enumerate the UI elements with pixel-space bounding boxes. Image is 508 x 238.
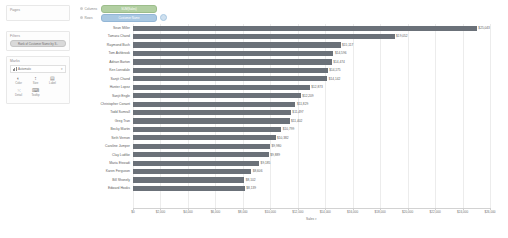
bar-row[interactable]: $14,596 <box>133 49 490 57</box>
bar[interactable] <box>133 34 395 39</box>
columns-shelf-icon <box>80 7 83 10</box>
bar-row[interactable]: $8,139 <box>133 184 490 192</box>
bar-row[interactable]: $14,474 <box>133 58 490 66</box>
bar-row[interactable]: $11,402 <box>133 117 490 125</box>
bar-value-label: $14,596 <box>333 49 346 57</box>
category-label-row[interactable]: Raymond Buch <box>80 41 131 49</box>
bar[interactable] <box>133 152 269 157</box>
bar-row[interactable]: $10,799 <box>133 125 490 133</box>
bar-row[interactable]: $11,829 <box>133 100 490 108</box>
category-label-row[interactable]: Sanjit Engle <box>80 92 131 100</box>
category-label-row[interactable]: Edward Hooks <box>80 184 131 192</box>
bar[interactable] <box>133 177 244 182</box>
bar[interactable] <box>133 186 245 191</box>
axis-tick-label: $4,000 <box>183 210 192 214</box>
columns-shelf[interactable]: Columns SUM(Sales) <box>80 5 157 13</box>
bar-row[interactable]: $12,209 <box>133 92 490 100</box>
bar-value-label: $8,606 <box>251 167 262 175</box>
bar[interactable] <box>133 169 251 174</box>
bar-row[interactable]: $8,606 <box>133 167 490 175</box>
category-label: Raymond Buch <box>107 41 130 49</box>
bar-row[interactable]: $15,117 <box>133 41 490 49</box>
category-label-row[interactable]: Seth Vernon <box>80 134 131 142</box>
bar[interactable] <box>133 118 290 123</box>
marks-button-label[interactable]: ▤ Label <box>44 75 61 85</box>
pages-card[interactable]: Pages <box>6 5 70 21</box>
bar[interactable] <box>133 127 281 132</box>
axis-line <box>133 208 490 209</box>
bar-row[interactable]: $9,889 <box>133 151 490 159</box>
marks-type-dropdown[interactable]: Automatic ▾ <box>10 65 66 73</box>
bar[interactable] <box>133 51 333 56</box>
axis-title[interactable]: Sales ▾ <box>133 217 490 221</box>
rows-shelf-text: Rows <box>85 16 93 20</box>
bar[interactable] <box>133 161 259 166</box>
marks-button-tooltip[interactable]: ⌨ Tooltip <box>27 87 44 97</box>
category-label-row[interactable]: Tamara Chand <box>80 32 131 40</box>
category-label-row[interactable]: Bill Shonely <box>80 176 131 184</box>
bar-value-label: $19,052 <box>395 32 408 40</box>
bar[interactable] <box>133 93 301 98</box>
marks-button-size[interactable]: ↕ Size <box>27 75 44 85</box>
bar-value-label: $10,799 <box>281 125 294 133</box>
bar-row[interactable]: $14,175 <box>133 66 490 74</box>
rows-shelf-icon <box>80 16 83 19</box>
axis-tick-label: $14,000 <box>320 210 331 214</box>
marks-card[interactable]: Marks Automatic ▾ ◐ Color ↕ Size ▤ Label <box>6 56 70 104</box>
bar[interactable] <box>133 42 341 47</box>
category-label-row[interactable]: Clay Ludtke <box>80 151 131 159</box>
bar[interactable] <box>133 26 477 31</box>
bar-row[interactable]: $25,043 <box>133 24 490 32</box>
category-label-row[interactable]: Tom Ashbrook <box>80 49 131 57</box>
filters-card[interactable]: Filters Rank of Customer Name by S.. <box>6 31 70 51</box>
bar[interactable] <box>133 110 291 115</box>
category-label-row[interactable]: Ken Lonsdale <box>80 66 131 74</box>
category-label: Adrian Barton <box>109 58 130 66</box>
bar-value-label: $12,209 <box>301 92 314 100</box>
bar-row[interactable]: $12,873 <box>133 83 490 91</box>
sort-descending-icon[interactable] <box>160 14 167 21</box>
category-label: Sanjit Engle <box>112 92 130 100</box>
columns-shelf-text: Columns <box>85 7 98 11</box>
category-label-row[interactable]: Caroline Jumper <box>80 142 131 150</box>
category-label-row[interactable]: Becky Martin <box>80 125 131 133</box>
bar-value-label: $14,142 <box>327 75 340 83</box>
bar[interactable] <box>133 144 270 149</box>
bar-value-label: $15,117 <box>341 41 354 49</box>
columns-pill-sum-sales[interactable]: SUM(Sales) <box>101 5 157 13</box>
bar-row[interactable]: $9,980 <box>133 142 490 150</box>
bar[interactable] <box>133 76 327 81</box>
chevron-down-icon[interactable]: ▾ <box>61 67 63 71</box>
bar[interactable] <box>133 68 328 73</box>
category-label: Christopher Conant <box>101 100 130 108</box>
category-label: Greg Tran <box>115 117 130 125</box>
category-label: Bill Shonely <box>112 176 130 184</box>
bar-row[interactable]: $9,185 <box>133 159 490 167</box>
category-label-row[interactable]: Adrian Barton <box>80 58 131 66</box>
bar-row[interactable]: $19,052 <box>133 32 490 40</box>
bar-row[interactable]: $8,102 <box>133 176 490 184</box>
bar[interactable] <box>133 102 295 107</box>
bar-row[interactable]: $11,497 <box>133 108 490 116</box>
bar[interactable] <box>133 85 310 90</box>
category-label-row[interactable]: Sanjit Chand <box>80 75 131 83</box>
marks-button-detail[interactable]: ⁙ Detail <box>10 87 27 97</box>
bar-value-label: $14,175 <box>328 66 341 74</box>
category-label-row[interactable]: Greg Tran <box>80 117 131 125</box>
category-label-row[interactable]: Maria Etezadi <box>80 159 131 167</box>
category-label-row[interactable]: Hunter Lopez <box>80 83 131 91</box>
category-label-row[interactable]: Christopher Conant <box>80 100 131 108</box>
bar[interactable] <box>133 135 276 140</box>
category-label-row[interactable]: Todd Sumrall <box>80 108 131 116</box>
bar-row[interactable]: $14,142 <box>133 75 490 83</box>
rows-shelf[interactable]: Rows Customer Name <box>80 14 167 22</box>
sort-caret-icon[interactable]: ▾ <box>315 217 317 221</box>
bar[interactable] <box>133 59 332 64</box>
category-label-row[interactable]: Sean Miller <box>80 24 131 32</box>
marks-button-color[interactable]: ◐ Color <box>10 75 27 85</box>
filter-pill-rank-of-customer-name[interactable]: Rank of Customer Name by S.. <box>10 40 66 47</box>
rows-pill-customer-name[interactable]: Customer Name <box>101 14 157 22</box>
category-label-row[interactable]: Karen Ferguson <box>80 167 131 175</box>
bar-value-label: $25,043 <box>477 24 490 32</box>
bar-row[interactable]: $10,382 <box>133 134 490 142</box>
